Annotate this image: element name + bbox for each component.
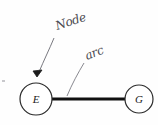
node-label-e: E bbox=[32, 93, 40, 105]
arc-annotation-leader-line bbox=[67, 63, 84, 96]
node-annotation-leader-line bbox=[39, 38, 54, 72]
graph-diagram: E G Node arc bbox=[0, 0, 158, 125]
handwritten-label-node: Node bbox=[53, 10, 88, 33]
stray-ink-mark bbox=[2, 80, 5, 82]
node-label-g: G bbox=[135, 93, 143, 105]
handwritten-label-arc: arc bbox=[83, 43, 106, 63]
figure-canvas: E G Node arc bbox=[0, 0, 158, 125]
node-annotation-arrowhead bbox=[33, 70, 42, 77]
